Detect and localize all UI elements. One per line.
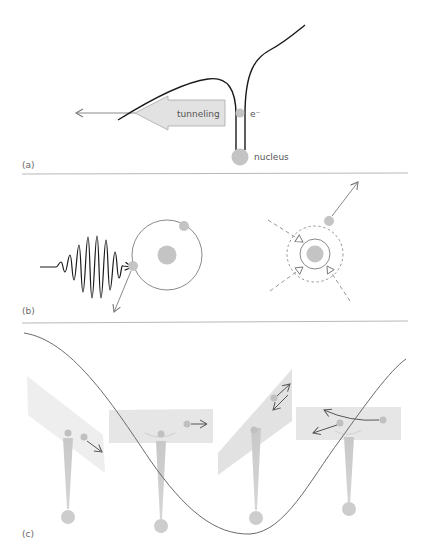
electron-c4b	[380, 417, 387, 424]
escape-arrow-b	[332, 182, 358, 216]
electron-label: e⁻	[250, 109, 261, 119]
nucleus	[232, 149, 249, 166]
panel-b: (b)	[22, 182, 358, 316]
nucleus-c1	[61, 510, 75, 524]
nucleus-c4	[342, 502, 356, 516]
incoming-dashed-1	[268, 220, 303, 242]
ejection-arrow	[114, 271, 131, 312]
stem-1	[63, 438, 73, 509]
plane-4	[296, 407, 401, 440]
panel-a: tunneling e⁻ nucleus (a)	[22, 25, 305, 170]
nucleus-c2	[154, 519, 168, 533]
electron-c1b	[81, 434, 88, 441]
nucleus-c3	[249, 511, 263, 525]
bound-electron	[179, 221, 189, 231]
laser-pulse	[40, 236, 132, 298]
electron-c4a	[337, 420, 344, 427]
divider-2	[22, 321, 408, 323]
panel-label-b: (b)	[22, 306, 35, 316]
panel-label-c: (c)	[22, 529, 34, 539]
electron-c3a	[251, 427, 258, 434]
nucleus-b	[158, 246, 177, 265]
stem-3	[251, 428, 261, 510]
incoming-dashed-3	[327, 266, 350, 301]
electron	[236, 109, 245, 118]
figure-canvas: tunneling e⁻ nucleus (a) (b)	[0, 0, 425, 547]
electron-c2b	[184, 421, 191, 428]
potential-curve-right	[245, 25, 305, 150]
divider-1	[22, 173, 408, 174]
incoming-dashed-2	[270, 267, 303, 291]
electron-c2a	[158, 431, 165, 438]
panel-label-a: (a)	[22, 160, 35, 170]
electron-c1a	[65, 430, 72, 437]
plane-2	[109, 409, 213, 443]
ejected-electron	[128, 261, 138, 271]
escaping-electron	[324, 216, 334, 226]
stem-4	[344, 437, 354, 506]
electron-c3b	[271, 395, 278, 402]
panel-c: (c)	[22, 333, 406, 539]
tunneling-label: tunneling	[177, 109, 220, 119]
nucleus-label: nucleus	[254, 152, 289, 162]
nucleus-b2	[307, 246, 324, 263]
